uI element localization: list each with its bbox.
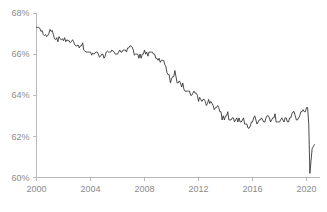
chart-container: 68%66%64%62%60% 200020042008201220162020 (0, 0, 327, 212)
x-tick-label: 2004 (80, 184, 100, 194)
y-axis-ticks: 68%66%64%62%60% (11, 8, 36, 183)
x-tick-label: 2000 (26, 184, 46, 194)
x-tick-label: 2012 (188, 184, 208, 194)
y-tick-label: 68% (11, 8, 29, 18)
y-tick-label: 60% (11, 173, 29, 183)
y-tick-label: 66% (11, 49, 29, 59)
x-tick-label: 2020 (296, 184, 316, 194)
plot-area: 68%66%64%62%60% 200020042008201220162020 (11, 8, 320, 193)
data-series-line (37, 27, 315, 173)
y-tick-label: 64% (11, 90, 29, 100)
x-axis-ticks: 200020042008201220162020 (26, 178, 316, 194)
x-tick-label: 2008 (134, 184, 154, 194)
x-tick-label: 2016 (242, 184, 262, 194)
line-chart: 68%66%64%62%60% 200020042008201220162020 (0, 0, 327, 212)
y-tick-label: 62% (11, 132, 29, 142)
